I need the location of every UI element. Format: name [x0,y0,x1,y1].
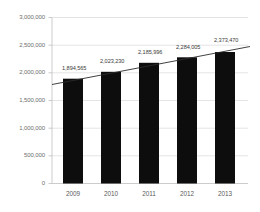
value-label-2012: 2,284,005 [176,44,200,51]
value-label-2011: 2,185,996 [138,49,162,56]
bar-2010 [101,72,121,184]
x-tick-label-2013: 2013 [209,190,241,198]
value-label-2010: 2,023,230 [100,58,124,65]
y-axis [49,18,53,184]
bar-chart: 3,000,000 2,500,000 2,000,000 1,500,000 … [0,0,260,212]
bar-2009 [63,79,83,184]
y-tick-label-1500000: 1,500,000 [4,97,45,104]
y-tick-label-1000000: 1,000,000 [4,125,45,132]
bar-series [63,52,235,184]
y-tick-label-3000000: 3,000,000 [4,14,45,21]
x-tick-label-2010: 2010 [95,190,127,198]
x-tick-label-2012: 2012 [171,190,203,198]
bar-2012 [177,57,197,183]
bar-2013 [215,52,235,184]
value-label-2009: 1,894,565 [62,65,86,72]
x-tick-label-2011: 2011 [133,190,165,198]
value-label-2013: 2,373,470 [214,37,238,44]
y-tick-label-2500000: 2,500,000 [4,42,45,49]
y-tick-label-0: 0 [4,180,45,187]
y-tick-label-2000000: 2,000,000 [4,69,45,76]
y-tick-label-500000: 500,000 [4,152,45,159]
bar-2011 [139,63,159,184]
x-tick-label-2009: 2009 [57,190,89,198]
